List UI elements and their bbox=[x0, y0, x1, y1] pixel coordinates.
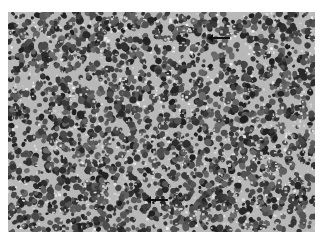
annotation-arrow-icon bbox=[212, 37, 230, 39]
micrograph-image bbox=[8, 12, 315, 232]
annotation-arrow-icon bbox=[150, 199, 168, 201]
